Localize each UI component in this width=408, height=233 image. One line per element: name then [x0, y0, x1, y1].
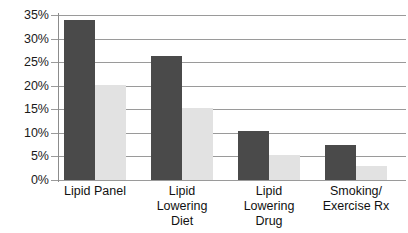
bar-series-dark-0[interactable] — [64, 20, 95, 180]
bar-chart: 0%5%10%15%20%25%30%35% Lipid PanelLipidL… — [0, 0, 408, 233]
x-axis-label-3: Smoking/Exercise Rx — [303, 184, 408, 214]
y-axis-tick-label: 25% — [3, 56, 49, 69]
bar-series-dark-3[interactable] — [325, 145, 356, 180]
bar-group — [151, 15, 213, 180]
y-tick-mark — [51, 62, 58, 63]
bars-layer — [58, 15, 406, 180]
bar-series-light-2[interactable] — [269, 155, 300, 180]
y-tick-mark — [51, 86, 58, 87]
y-tick-mark — [51, 133, 58, 134]
gridline — [58, 180, 406, 181]
y-axis-tick-label: 10% — [3, 127, 49, 140]
y-axis-tick-label: 35% — [3, 9, 49, 22]
bar-series-light-1[interactable] — [182, 108, 213, 180]
x-axis-label-line: Drug — [216, 214, 322, 229]
bar-series-dark-1[interactable] — [151, 56, 182, 180]
bar-group — [238, 15, 300, 180]
y-axis-tick-label: 5% — [3, 150, 49, 163]
y-axis-tick-label: 15% — [3, 103, 49, 116]
y-tick-mark — [51, 109, 58, 110]
bar-series-light-3[interactable] — [356, 166, 387, 180]
bar-group — [325, 15, 387, 180]
bar-series-dark-2[interactable] — [238, 131, 269, 180]
y-tick-mark — [51, 180, 58, 181]
y-axis-tick-label: 30% — [3, 32, 49, 45]
bar-group — [64, 15, 126, 180]
y-tick-mark — [51, 39, 58, 40]
y-tick-mark — [51, 15, 58, 16]
bar-series-light-0[interactable] — [95, 85, 126, 180]
y-axis-tick-label: 20% — [3, 79, 49, 92]
x-axis-label-line: Exercise Rx — [303, 199, 408, 214]
y-tick-mark — [51, 156, 58, 157]
x-axis-label-line: Smoking/ — [303, 184, 408, 199]
x-axis-category-labels: Lipid PanelLipidLoweringDietLipidLowerin… — [58, 184, 406, 233]
